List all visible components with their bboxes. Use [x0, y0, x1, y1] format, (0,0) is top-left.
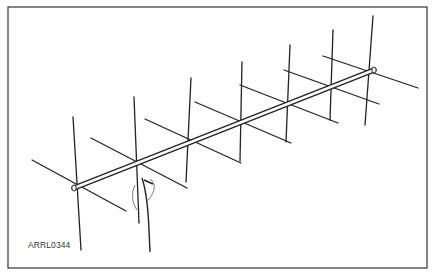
boom-fill [74, 70, 374, 188]
vertical-element [186, 78, 191, 182]
vertical-element [286, 45, 290, 142]
figure-frame [8, 7, 427, 268]
vertical-elements [73, 16, 373, 250]
vertical-element [240, 62, 242, 161]
crossed-yagi-drawing [0, 0, 433, 274]
antenna-diagram: ARRL0344 [0, 0, 433, 274]
feed-cable [133, 178, 155, 252]
boom [72, 67, 376, 191]
boom-end-cap [72, 185, 76, 191]
horizontal-elements [32, 56, 418, 211]
vertical-element [330, 30, 333, 120]
boom-end-cap [372, 67, 376, 73]
figure-id-label: ARRL0344 [28, 240, 70, 250]
